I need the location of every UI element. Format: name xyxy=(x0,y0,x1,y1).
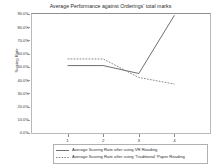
x-tick-label: 2 xyxy=(96,138,110,143)
y-tick-mark xyxy=(27,133,30,134)
chart-title: Average Performance against Orderings' t… xyxy=(0,3,221,10)
x-tick-mark xyxy=(139,134,140,137)
y-axis-ticks: 90.0%80.0%70.0%60.0%50.0%40.0%30.0%20.0%… xyxy=(0,13,29,134)
x-tick-mark xyxy=(68,134,69,137)
y-tick-label: 50.0% xyxy=(5,64,29,69)
legend-label-paper-reading: Average Scoring Rate after using 'Tradit… xyxy=(72,154,185,160)
legend-label-vr-reading: Average Scoring Rate after using VR Read… xyxy=(72,147,157,153)
y-tick-mark xyxy=(27,80,30,81)
y-tick-label: 90.0% xyxy=(5,11,29,16)
plot-area xyxy=(31,13,211,134)
y-tick-mark xyxy=(27,40,30,41)
x-tick-label: 1 xyxy=(61,138,75,143)
legend-item-paper-reading: Average Scoring Rate after using 'Tradit… xyxy=(56,154,205,161)
y-tick-label: 40.0% xyxy=(5,78,29,83)
chart-legend: Average Scoring Rate after using VR Read… xyxy=(53,144,208,164)
series-line-2 xyxy=(68,59,175,84)
y-tick-label: 80.0% xyxy=(5,25,29,30)
y-tick-label: 70.0% xyxy=(5,38,29,43)
legend-line-solid-icon xyxy=(56,148,69,153)
x-tick-mark xyxy=(103,134,104,137)
plot-lines xyxy=(32,14,210,133)
y-tick-mark xyxy=(27,54,30,55)
y-tick-mark xyxy=(27,27,30,28)
y-tick-mark xyxy=(27,120,30,121)
x-tick-label: 3 xyxy=(132,138,146,143)
y-tick-label: 0.0% xyxy=(5,130,29,135)
y-tick-mark xyxy=(27,107,30,108)
x-tick-mark xyxy=(174,134,175,137)
chart-container: Average Performance against Orderings' t… xyxy=(0,0,221,167)
y-tick-label: 30.0% xyxy=(5,91,29,96)
legend-item-vr-reading: Average Scoring Rate after using VR Read… xyxy=(56,147,205,154)
series-line-1 xyxy=(68,15,175,73)
y-tick-mark xyxy=(27,14,30,15)
y-tick-mark xyxy=(27,67,30,68)
y-tick-label: 60.0% xyxy=(5,51,29,56)
y-tick-mark xyxy=(27,93,30,94)
legend-line-dashed-icon xyxy=(56,155,69,160)
y-tick-label: 10.0% xyxy=(5,117,29,122)
y-tick-label: 20.0% xyxy=(5,104,29,109)
x-tick-label: 4 xyxy=(167,138,181,143)
